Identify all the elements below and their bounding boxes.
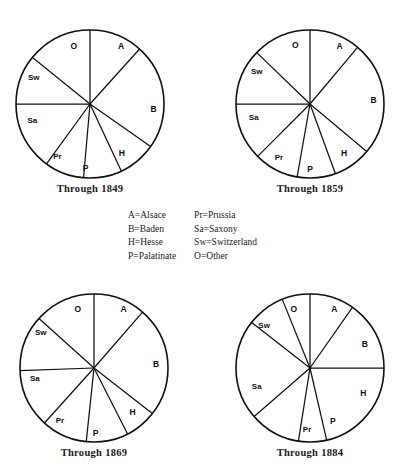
- pie-slice-label-Sw: Sw: [258, 321, 270, 330]
- legend-item: Sa=Saxony: [194, 223, 257, 237]
- pie-chart-3: ABHPPrSaSwOThrough 1884: [222, 286, 398, 458]
- pie-slice-label-Sa: Sa: [30, 374, 40, 383]
- legend-item: A=Alsace: [128, 209, 176, 223]
- pie-slice-label-A: A: [118, 41, 124, 51]
- pie-slice-label-B: B: [153, 359, 159, 369]
- legend-item: O=Other: [194, 250, 257, 264]
- pie-slice-label-O: O: [290, 304, 297, 314]
- legend-column-right: Pr=Prussia Sa=Saxony Sw=Switzerland O=Ot…: [194, 209, 257, 263]
- chart-caption: Through 1884: [222, 447, 398, 458]
- pie-slice-label-O: O: [74, 304, 81, 314]
- pie-slice-label-Pr: Pr: [275, 153, 283, 162]
- pie-slice-label-Sa: Sa: [252, 382, 262, 391]
- pie-svg: ABHPPrSaSwO: [222, 286, 398, 446]
- pie-slice-label-Pr: Pr: [303, 425, 311, 434]
- pie-slice-label-Sw: Sw: [35, 328, 47, 337]
- pie-slice-label-O: O: [292, 40, 299, 50]
- pie-slice-label-H: H: [129, 407, 135, 417]
- pie-chart-0: ABHPPrSaSwOThrough 1849: [2, 22, 178, 194]
- pie-slice-label-P: P: [330, 416, 336, 426]
- pie-wrap: ABHPPrSaSwO: [222, 286, 398, 446]
- legend-column-left: A=Alsace B=Baden H=Hesse P=Palatinate: [128, 209, 176, 263]
- pie-slice-label-A: A: [331, 304, 337, 314]
- legend: A=Alsace B=Baden H=Hesse P=Palatinate Pr…: [128, 209, 378, 263]
- pie-svg: ABHPPrSaSwO: [6, 286, 182, 446]
- pie-slice-label-Pr: Pr: [56, 416, 64, 425]
- pie-slice-label-Sw: Sw: [251, 67, 263, 76]
- pie-wrap: ABHPPrSaSwO: [2, 22, 178, 182]
- pie-slice-label-H: H: [119, 148, 125, 158]
- pie-slice-label-B: B: [362, 339, 368, 349]
- legend-item: Sw=Switzerland: [194, 236, 257, 250]
- pie-slice-label-O: O: [70, 41, 77, 51]
- pie-slice-label-P: P: [93, 428, 99, 438]
- pie-slice-label-H: H: [360, 388, 366, 398]
- pie-wrap: ABHPPrSaSwO: [222, 22, 398, 182]
- chart-caption: Through 1849: [2, 183, 178, 194]
- pie-svg: ABHPPrSaSwO: [222, 22, 398, 182]
- pie-slice-label-B: B: [151, 104, 157, 114]
- pie-chart-2: ABHPPrSaSwOThrough 1869: [6, 286, 182, 458]
- pie-chart-1: ABHPPrSaSwOThrough 1859: [222, 22, 398, 194]
- legend-item: P=Palatinate: [128, 250, 176, 264]
- legend-item: Pr=Prussia: [194, 209, 257, 223]
- pie-wrap: ABHPPrSaSwO: [6, 286, 182, 446]
- pie-slice-label-P: P: [83, 163, 89, 173]
- pie-slice-label-Sa: Sa: [249, 113, 259, 122]
- pie-slice-label-H: H: [341, 148, 347, 158]
- pie-slice-label-Sw: Sw: [28, 73, 40, 82]
- pie-slice-label-A: A: [337, 41, 343, 51]
- pie-slice-label-A: A: [121, 304, 127, 314]
- pie-slice-label-P: P: [307, 164, 313, 174]
- chart-caption: Through 1869: [6, 447, 182, 458]
- pie-slice-label-Pr: Pr: [53, 152, 61, 161]
- pie-slice-label-B: B: [371, 95, 377, 105]
- pie-slice-label-Sa: Sa: [27, 116, 37, 125]
- legend-item: H=Hesse: [128, 236, 176, 250]
- legend-item: B=Baden: [128, 223, 176, 237]
- pie-svg: ABHPPrSaSwO: [2, 22, 178, 182]
- chart-caption: Through 1859: [222, 183, 398, 194]
